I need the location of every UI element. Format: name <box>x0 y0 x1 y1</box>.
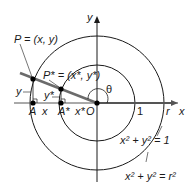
x-axis-arrow-icon <box>171 100 178 106</box>
tick-label-r: r <box>166 105 171 117</box>
point-P <box>30 76 35 81</box>
label-ystar: y* <box>43 89 55 101</box>
label-Pstar: P* = (x*, y*) <box>43 69 100 81</box>
y-axis-arrow-icon <box>94 16 100 23</box>
label-O: O <box>86 105 95 117</box>
y-axis-label: y <box>86 11 94 23</box>
tick-label-1: 1 <box>137 105 143 117</box>
label-y: y <box>15 85 23 97</box>
label-theta: θ <box>106 83 112 95</box>
label-x: x <box>41 105 48 117</box>
equation-circle-r: x² + y² = r² <box>124 170 176 182</box>
point-Pstar <box>58 86 63 91</box>
equation-unit-circle: x² + y² = 1 <box>119 134 170 146</box>
polar-coordinates-diagram: P = (x, y) P* = (x*, y*) y y* A x A* x* … <box>0 0 195 196</box>
leader-eq-r <box>146 152 148 162</box>
leader-P <box>20 44 32 77</box>
label-xstar: x* <box>74 105 86 117</box>
label-P: P = (x, y) <box>14 33 58 45</box>
x-axis-label: x <box>178 105 185 117</box>
label-A: A <box>28 105 36 117</box>
label-Astar: A* <box>57 105 70 117</box>
point-O <box>94 100 99 105</box>
